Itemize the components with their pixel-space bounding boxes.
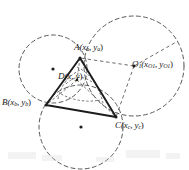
label-a-close: )	[100, 42, 103, 52]
vertex-marker-b	[45, 104, 48, 107]
center-dot-left-circle	[51, 67, 54, 70]
scan-artifact	[42, 155, 62, 161]
triangle-outline	[46, 58, 116, 117]
triangle-abc	[46, 58, 116, 117]
label-o1-mid: , y	[155, 59, 163, 69]
label-o1-close: )	[170, 59, 173, 69]
label-point-o1: O1(xO1, yO1)	[132, 60, 173, 69]
vertex-marker-a	[79, 57, 82, 60]
center-dot-bottom-circle	[79, 125, 82, 128]
label-d-close: )	[79, 71, 82, 81]
geometry-figure: A(xa, ya) O1(xO1, yO1) D(x, y) B(xb, yb)…	[0, 0, 189, 170]
label-point-b: B(xb, yb)	[2, 98, 31, 107]
scan-artifact	[126, 150, 160, 158]
label-b-mid: , y	[17, 97, 25, 107]
radius-line-o1-c	[116, 66, 134, 117]
radius-lines-group	[80, 41, 178, 117]
vertex-marker-c	[115, 116, 118, 119]
label-point-d: D(x, y)	[58, 72, 82, 81]
figure-canvas	[0, 0, 189, 170]
scan-artifact	[96, 157, 114, 162]
inner-dashed-group	[46, 58, 116, 117]
label-o1-sub1: O1	[148, 63, 155, 69]
scan-artifact	[8, 152, 36, 159]
label-a-mid: , y	[89, 42, 97, 52]
label-point-a: A(xa, ya)	[74, 43, 103, 52]
label-b-close: )	[28, 97, 31, 107]
label-c-close: )	[141, 120, 144, 130]
label-point-c: C(xc, yc)	[115, 121, 144, 130]
label-o1-open: (x	[141, 59, 148, 69]
label-c-open: (x	[121, 120, 128, 130]
radius-line-o1-a	[80, 58, 134, 66]
scan-artifact	[166, 153, 180, 159]
